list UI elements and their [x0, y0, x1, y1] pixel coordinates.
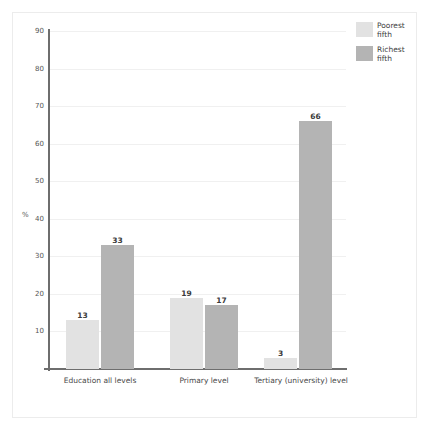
bar-value-education-poorest: 13 [66, 311, 99, 320]
bar-value-tertiary-poorest: 3 [264, 349, 297, 358]
y-tick-90-label: 90 [20, 27, 44, 35]
y-tick-10-label: 10 [20, 327, 44, 335]
y-tick-20-label: 20 [20, 290, 44, 298]
gridline-90 [50, 31, 346, 32]
bar-education-poorest [66, 320, 99, 369]
y-tick-20: 20 [16, 290, 44, 298]
bar-value-primary-poorest: 19 [170, 289, 203, 298]
category-label-education: Education all levels [55, 376, 145, 386]
y-tick-60-label: 60 [20, 140, 44, 148]
bar-tertiary-richest [299, 121, 332, 369]
y-tick-30: 30 [16, 252, 44, 260]
legend: Poorest fifth Richest fifth [356, 22, 418, 70]
bar-value-primary-richest: 17 [205, 296, 238, 305]
bar-tertiary-poorest [264, 358, 297, 369]
category-label-primary: Primary level [159, 376, 249, 386]
bar-value-education-richest: 33 [101, 236, 134, 245]
y-tick-10: 10 [16, 327, 44, 335]
y-tick-90: 90 [16, 27, 44, 35]
bar-education-richest [101, 245, 134, 369]
y-tick-60: 60 [16, 140, 44, 148]
gridline-70 [50, 106, 346, 107]
y-axis-line [48, 29, 50, 371]
y-tick-40: 40 [16, 215, 44, 223]
gridline-80 [50, 69, 346, 70]
legend-item-poorest: Poorest fifth [356, 22, 418, 39]
chart-page: 90 80 70 60 50 40 30 20 10 % 13 33 Educa… [0, 0, 430, 433]
bar-primary-poorest [170, 298, 203, 369]
legend-swatch-richest-icon [356, 46, 373, 61]
bar-primary-richest [205, 305, 238, 369]
y-axis-title: % [22, 211, 29, 219]
y-tick-70: 70 [16, 102, 44, 110]
legend-label-poorest: Poorest fifth [377, 22, 405, 39]
legend-item-richest: Richest fifth [356, 46, 418, 63]
y-tick-30-label: 30 [20, 252, 44, 260]
legend-label-richest: Richest fifth [377, 46, 405, 63]
y-tick-80-label: 80 [20, 65, 44, 73]
y-tick-50: 50 [16, 177, 44, 185]
y-tick-70-label: 70 [20, 102, 44, 110]
bar-value-tertiary-richest: 66 [299, 112, 332, 121]
category-label-tertiary: Tertiary (university) level [253, 376, 349, 386]
y-tick-80: 80 [16, 65, 44, 73]
y-tick-50-label: 50 [20, 177, 44, 185]
legend-swatch-poorest-icon [356, 22, 373, 37]
